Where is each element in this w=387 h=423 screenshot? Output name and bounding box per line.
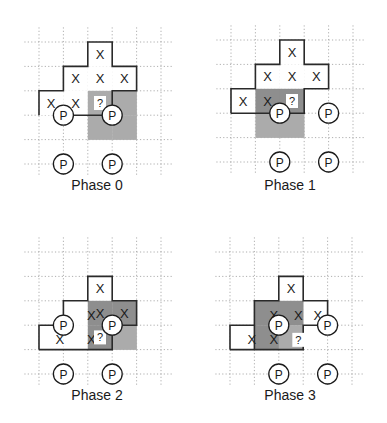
panel-phase-2: XXXXXX?PPPPPhase 2 [24,237,173,403]
p-node: P [269,364,289,384]
p-label: P [59,158,67,172]
p-label: P [275,319,283,333]
x-mark: X [120,71,129,86]
phase-diagram: XXXXXX?PPPPPhase 0 XXXXXX?PPPPPhase 1 XX… [0,0,387,423]
p-label: P [108,109,116,123]
p-label: P [59,368,67,382]
x-mark: X [288,45,297,60]
x-mark: X [312,69,321,84]
p-label: P [324,368,332,382]
p-node: P [102,364,122,384]
phase-label: Phase 3 [264,387,316,403]
x-mark: X [120,306,129,321]
x-mark: X [71,71,80,86]
p-node: P [270,152,290,172]
x-mark: X [263,69,272,84]
question-mark: ? [289,95,295,107]
p-node: P [319,103,339,123]
p-label: P [108,158,116,172]
phase-label: Phase 1 [264,177,316,193]
x-mark: X [239,94,248,109]
question-mark: ? [97,331,103,343]
p-node: P [318,315,338,335]
p-label: P [108,368,116,382]
x-mark: X [263,94,272,109]
p-label: P [59,109,67,123]
p-node: P [270,103,290,123]
x-mark: X [96,47,105,62]
p-node: P [53,315,73,335]
p-label: P [324,319,332,333]
p-label: P [325,156,333,170]
p-label: P [325,107,333,121]
panel-phase-3: XXXXXX?PPPPPhase 3 [215,237,364,403]
p-label: P [59,319,67,333]
x-mark: X [96,71,105,86]
p-label: P [276,107,284,121]
p-label: P [276,156,284,170]
p-node: P [269,315,289,335]
p-node: P [53,105,73,125]
x-mark: X [287,281,296,296]
p-node: P [53,154,73,174]
x-mark: X [47,96,56,111]
p-node: P [102,315,122,335]
x-mark: X [294,308,303,323]
x-mark: X [96,306,105,321]
x-mark: X [288,69,297,84]
x-mark: X [248,332,257,347]
p-node: P [319,152,339,172]
p-node: P [102,154,122,174]
p-node: P [53,364,73,384]
p-node: P [102,105,122,125]
panel-phase-0: XXXXXX?PPPPPhase 0 [24,27,173,193]
panel-phase-1: XXXXXX?PPPPPhase 1 [216,25,365,193]
question-mark: ? [295,334,301,346]
p-node: P [318,364,338,384]
phase-label: Phase 2 [71,387,123,403]
phase-label: Phase 0 [71,177,123,193]
p-label: P [108,319,116,333]
x-mark: X [71,96,80,111]
x-mark: X [96,281,105,296]
p-label: P [275,368,283,382]
question-mark: ? [97,97,103,109]
